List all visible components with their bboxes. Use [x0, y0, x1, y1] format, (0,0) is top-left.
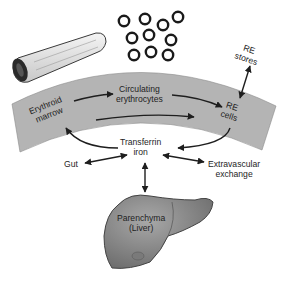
transferrin-line1: Transferrin: [120, 137, 161, 147]
label-transferrin-iron: Transferrin iron: [120, 137, 161, 157]
arrow-transferrin-extravascular: [163, 155, 204, 162]
gut-text: Gut: [64, 159, 78, 169]
red-blood-cells-icon: [119, 12, 183, 60]
circulating-line1: Circulating: [116, 84, 163, 94]
parenchyma-line2: (Liver): [117, 223, 165, 233]
circulating-line2: erythrocytes: [116, 94, 163, 104]
extravascular-line2: exchange: [208, 169, 260, 179]
label-extravascular-exchange: Extravascular exchange: [208, 159, 260, 179]
transferrin-line2: iron: [120, 147, 161, 157]
label-circulating-erythrocytes: Circulating erythrocytes: [116, 84, 163, 104]
extravascular-line1: Extravascular: [208, 159, 260, 169]
label-parenchyma-liver: Parenchyma (Liver): [117, 213, 165, 233]
label-gut: Gut: [64, 159, 78, 169]
bone-icon: [9, 33, 106, 84]
iron-cycle-diagram: Erythroid marrow Circulating erythrocyte…: [0, 0, 288, 284]
parenchyma-line1: Parenchyma: [117, 213, 165, 223]
